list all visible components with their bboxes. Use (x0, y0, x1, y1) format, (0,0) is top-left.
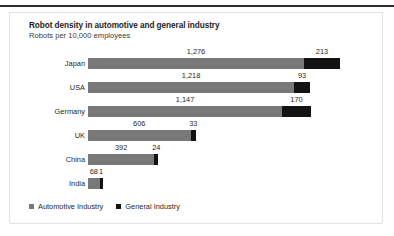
chart-screenshot: Robot density in automotive and general … (0, 0, 394, 236)
chart-row: China39224 (10, 142, 384, 166)
legend-label-automotive: Automotive Industry (38, 202, 103, 211)
bar-japan[interactable] (88, 58, 340, 69)
chart-row: USA1,21893 (10, 70, 384, 94)
bar-uk[interactable] (88, 130, 196, 141)
category-label-usa: USA (10, 83, 85, 92)
chart-legend: Automotive Industry General Industry (29, 202, 180, 211)
chart-row: India681 (10, 166, 384, 190)
chart-header: Robot density in automotive and general … (29, 20, 359, 41)
bar-india[interactable] (88, 178, 103, 189)
bar-segment-automotive[interactable] (88, 154, 154, 165)
legend-item-general[interactable]: General Industry (116, 202, 180, 211)
chart-row: Germany1,147170 (10, 94, 384, 118)
chart-title: Robot density in automotive and general … (29, 20, 359, 31)
bar-segment-general[interactable] (154, 154, 158, 165)
bar-segment-automotive[interactable] (88, 178, 100, 189)
legend-swatch-general-icon (116, 204, 121, 209)
value-label-automotive-usa: 1,218 (174, 71, 208, 80)
bar-germany[interactable] (88, 106, 311, 117)
bar-segment-general[interactable] (304, 58, 340, 69)
value-label-general-germany: 170 (283, 95, 311, 104)
bar-segment-automotive[interactable] (88, 106, 282, 117)
value-label-general-india: 1 (87, 167, 115, 176)
bar-usa[interactable] (88, 82, 310, 93)
bar-segment-automotive[interactable] (88, 82, 294, 93)
value-label-general-china: 24 (142, 143, 170, 152)
bar-segment-general[interactable] (282, 106, 311, 117)
top-divider-rule (0, 5, 394, 7)
chart-row: Japan1,276213 (10, 46, 384, 70)
chart-row: UK60633 (10, 118, 384, 142)
legend-swatch-automotive-icon (29, 204, 34, 209)
category-label-india: India (10, 179, 85, 188)
bar-segment-general[interactable] (191, 130, 197, 141)
plot-area: Japan1,276213USA1,21893Germany1,147170UK… (10, 46, 384, 191)
value-label-automotive-germany: 1,147 (168, 95, 202, 104)
bar-china[interactable] (88, 154, 158, 165)
bar-segment-automotive[interactable] (88, 58, 304, 69)
value-label-general-uk: 33 (179, 119, 207, 128)
category-label-uk: UK (10, 131, 85, 140)
category-label-china: China (10, 155, 85, 164)
value-label-general-usa: 93 (288, 71, 316, 80)
category-label-germany: Germany (10, 107, 85, 116)
chart-panel: Robot density in automotive and general … (9, 12, 383, 224)
bar-segment-general[interactable] (100, 178, 103, 189)
value-label-automotive-japan: 1,276 (179, 47, 213, 56)
bar-segment-general[interactable] (294, 82, 310, 93)
value-label-automotive-uk: 606 (122, 119, 156, 128)
chart-subtitle: Robots per 10,000 employees (29, 31, 359, 41)
legend-label-general: General Industry (125, 202, 180, 211)
value-label-general-japan: 213 (308, 47, 336, 56)
top-whitespace (0, 0, 394, 4)
legend-item-automotive[interactable]: Automotive Industry (29, 202, 103, 211)
bar-segment-automotive[interactable] (88, 130, 191, 141)
category-label-japan: Japan (10, 59, 85, 68)
value-label-automotive-china: 392 (104, 143, 138, 152)
